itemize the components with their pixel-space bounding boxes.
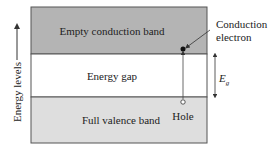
band-gap-diagram: Energy levels Empty conduction band Ener… xyxy=(0,0,279,152)
valence-band-label: Full valence band xyxy=(82,114,161,126)
energy-gap-label: Energy gap xyxy=(87,70,138,82)
conduction-band-label: Empty conduction band xyxy=(59,25,165,37)
gap-width-indicator: Eg xyxy=(215,55,230,96)
electron-label-line2: electron xyxy=(216,31,252,43)
hole-label: Hole xyxy=(172,110,194,122)
hole-circle-icon xyxy=(181,100,185,104)
energy-axis: Energy levels xyxy=(11,26,23,122)
gap-symbol: Eg xyxy=(218,72,230,87)
electron-label-line1: Conduction xyxy=(216,18,268,30)
electron-dot-icon xyxy=(181,47,186,52)
axis-label: Energy levels xyxy=(11,62,23,122)
